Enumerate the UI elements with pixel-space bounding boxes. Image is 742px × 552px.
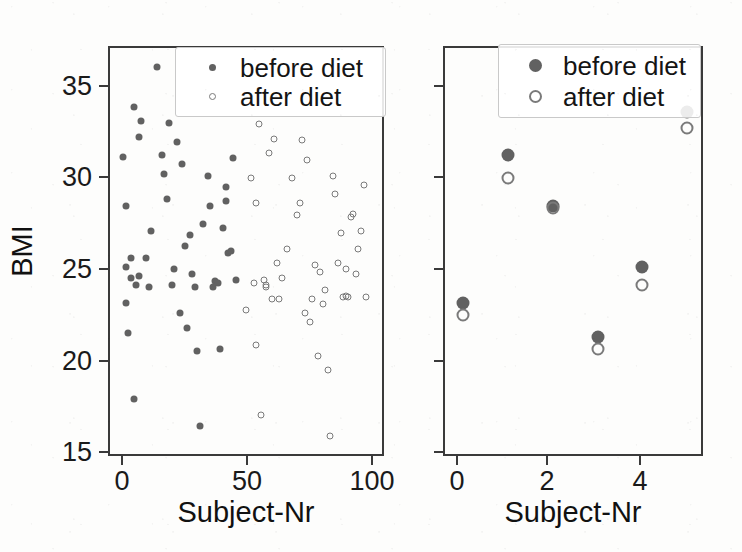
legend-entry-after-diet[interactable]: after diet xyxy=(184,82,373,111)
data-point xyxy=(502,148,515,161)
data-point xyxy=(122,264,129,271)
data-point xyxy=(636,261,649,274)
data-point xyxy=(352,271,359,278)
data-point xyxy=(294,212,301,219)
data-point xyxy=(258,412,265,419)
data-point xyxy=(276,296,283,303)
data-point xyxy=(191,283,198,290)
y-tick-25 xyxy=(99,268,108,270)
data-point xyxy=(255,121,262,128)
data-point xyxy=(327,433,334,440)
data-point xyxy=(268,296,275,303)
data-point xyxy=(248,174,255,181)
legend-marker-filled-circle xyxy=(184,64,240,71)
chart-panel-right: 0 2 4 Subject-Nr before diet after diet xyxy=(420,0,742,552)
data-point xyxy=(168,281,175,288)
data-point xyxy=(138,117,145,124)
x-ticklabel-2-right: 2 xyxy=(539,468,554,495)
data-point xyxy=(329,173,336,180)
data-point xyxy=(253,199,260,206)
data-point xyxy=(125,330,132,337)
data-point xyxy=(681,122,694,135)
data-point xyxy=(324,367,331,374)
chart-panel-left: 35 30 25 20 15 0 50 100 Subject-Nr BMI b… xyxy=(0,0,420,552)
data-point xyxy=(227,248,234,255)
data-point xyxy=(363,294,370,301)
data-point xyxy=(314,353,321,360)
data-point xyxy=(309,296,316,303)
data-point xyxy=(214,280,221,287)
data-point xyxy=(289,174,296,181)
data-point xyxy=(337,230,344,237)
y-tick-20 xyxy=(99,360,108,362)
data-point xyxy=(266,149,273,156)
x-axis-title-right: Subject-Nr xyxy=(505,498,642,527)
data-point xyxy=(591,330,604,343)
data-point xyxy=(232,276,239,283)
data-point xyxy=(332,190,339,197)
legend-entry-before-diet[interactable]: before diet xyxy=(184,53,373,82)
data-point xyxy=(133,281,140,288)
data-point xyxy=(278,274,285,281)
data-point xyxy=(122,299,129,306)
data-point xyxy=(360,182,367,189)
data-point xyxy=(179,160,186,167)
x-tick-100 xyxy=(371,456,373,465)
data-point xyxy=(130,395,137,402)
data-point xyxy=(299,137,306,144)
y-tick-25-right xyxy=(434,268,443,270)
legend-entry-after-diet[interactable]: after diet xyxy=(507,81,688,112)
y-tick-35 xyxy=(99,85,108,87)
data-point xyxy=(161,171,168,178)
legend-label-before-diet: before diet xyxy=(240,55,363,81)
data-point xyxy=(176,310,183,317)
data-point xyxy=(457,296,470,309)
data-point xyxy=(171,265,178,272)
data-point xyxy=(350,210,357,217)
data-point xyxy=(135,272,142,279)
x-axis-title-left: Subject-Nr xyxy=(178,498,315,527)
x-ticklabel-0: 0 xyxy=(114,468,129,495)
y-tick-30-right xyxy=(434,176,443,178)
y-tick-15-right xyxy=(434,451,443,453)
legend-right[interactable]: before diet after diet xyxy=(498,44,701,118)
data-point xyxy=(243,306,250,313)
x-tick-2-right xyxy=(546,456,548,465)
data-point xyxy=(345,294,352,301)
data-point xyxy=(306,319,313,326)
data-point xyxy=(128,274,135,281)
legend-marker-open-circle xyxy=(507,90,563,103)
legend-left[interactable]: before diet after diet xyxy=(175,47,386,117)
legend-marker-filled-circle xyxy=(507,59,563,72)
figure-canvas: 35 30 25 20 15 0 50 100 Subject-Nr BMI b… xyxy=(0,0,742,552)
y-ticklabel-30: 30 xyxy=(62,164,92,191)
data-point xyxy=(263,281,270,288)
data-point xyxy=(204,173,211,180)
data-point xyxy=(591,343,604,356)
data-point xyxy=(222,183,229,190)
data-point xyxy=(273,260,280,267)
data-point xyxy=(158,151,165,158)
data-point xyxy=(184,324,191,331)
data-point xyxy=(122,203,129,210)
data-point xyxy=(335,260,342,267)
data-point xyxy=(317,269,324,276)
x-ticklabel-4-right: 4 xyxy=(632,468,647,495)
y-tick-30 xyxy=(99,176,108,178)
data-point xyxy=(163,196,170,203)
y-ticklabel-15: 15 xyxy=(62,439,92,466)
y-ticklabel-20: 20 xyxy=(62,348,92,375)
legend-entry-before-diet[interactable]: before diet xyxy=(507,50,688,81)
data-point xyxy=(502,171,515,184)
data-point xyxy=(197,422,204,429)
data-point xyxy=(217,346,224,353)
data-point xyxy=(250,280,257,287)
data-point xyxy=(135,133,142,140)
data-point xyxy=(342,265,349,272)
x-ticklabel-50: 50 xyxy=(232,468,262,495)
x-ticklabel-0-right: 0 xyxy=(449,468,464,495)
data-point xyxy=(296,199,303,206)
data-point xyxy=(358,228,365,235)
legend-marker-open-circle xyxy=(184,93,240,100)
data-point xyxy=(207,203,214,210)
